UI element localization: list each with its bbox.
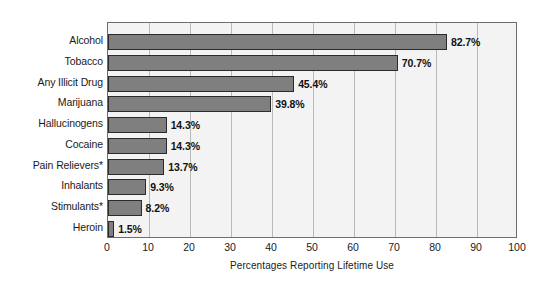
category-axis-labels: AlcoholTobaccoAny Illicit DrugMarijuanaH…: [0, 22, 103, 238]
x-tick-label: 30: [224, 241, 236, 253]
category-label: Stimulants*: [0, 200, 103, 212]
category-label: Marijuana: [0, 96, 103, 108]
category-label: Any Illicit Drug: [0, 76, 103, 88]
bar-row: 1.5%: [108, 221, 516, 237]
bar: [108, 55, 398, 71]
x-tick-label: 20: [183, 241, 195, 253]
x-tick-label: 70: [388, 241, 400, 253]
bar-value-label: 82.7%: [451, 36, 480, 48]
bar-value-label: 1.5%: [118, 223, 142, 235]
category-label: Pain Relievers*: [0, 159, 103, 171]
bar-value-label: 8.2%: [146, 202, 170, 214]
category-label: Heroin: [0, 221, 103, 233]
category-label: Tobacco: [0, 55, 103, 67]
x-tick-label: 60: [347, 241, 359, 253]
bar-value-label: 13.7%: [168, 161, 197, 173]
bar: [108, 34, 447, 50]
bar: [108, 96, 271, 112]
bar-row: 9.3%: [108, 179, 516, 195]
category-label: Inhalants: [0, 179, 103, 191]
x-tick-label: 80: [429, 241, 441, 253]
x-tick-label: 100: [508, 241, 526, 253]
bar-row: 13.7%: [108, 159, 516, 175]
bar-value-label: 45.4%: [298, 78, 327, 90]
category-label: Alcohol: [0, 34, 103, 46]
x-tick-label: 10: [142, 241, 154, 253]
bar-value-label: 70.7%: [402, 57, 431, 69]
bar-row: 14.3%: [108, 117, 516, 133]
bar-row: 39.8%: [108, 96, 516, 112]
x-axis-title: Percentages Reporting Lifetime Use: [107, 260, 517, 271]
x-axis-tick-labels: 0102030405060708090100: [107, 241, 517, 257]
bar: [108, 76, 294, 92]
x-tick-label: 40: [265, 241, 277, 253]
category-label: Cocaine: [0, 138, 103, 150]
bar: [108, 200, 142, 216]
bar: [108, 159, 164, 175]
x-tick-label: 50: [306, 241, 318, 253]
bar-value-label: 14.3%: [171, 140, 200, 152]
bar-chart-figure: AlcoholTobaccoAny Illicit DrugMarijuanaH…: [0, 0, 554, 293]
bar: [108, 179, 146, 195]
bar-value-label: 9.3%: [150, 181, 174, 193]
bar-rows: 82.7%70.7%45.4%39.8%14.3%14.3%13.7%9.3%8…: [108, 23, 516, 237]
bar-row: 8.2%: [108, 200, 516, 216]
bar-row: 14.3%: [108, 138, 516, 154]
bar: [108, 138, 167, 154]
x-tick-label: 90: [470, 241, 482, 253]
x-tick-label: 0: [104, 241, 110, 253]
bar: [108, 117, 167, 133]
bar: [108, 221, 114, 237]
bar-row: 45.4%: [108, 76, 516, 92]
bar-row: 82.7%: [108, 34, 516, 50]
bar-value-label: 39.8%: [275, 98, 304, 110]
category-label: Hallucinogens: [0, 117, 103, 129]
bar-value-label: 14.3%: [171, 119, 200, 131]
bar-row: 70.7%: [108, 55, 516, 71]
plot-area: 82.7%70.7%45.4%39.8%14.3%14.3%13.7%9.3%8…: [107, 22, 517, 238]
